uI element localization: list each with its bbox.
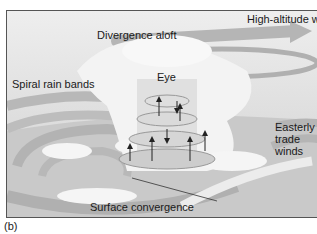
label-easterly-trade-winds-2: trade (275, 133, 300, 145)
label-easterly-trade-winds-3: winds (275, 145, 303, 157)
label-eye: Eye (157, 71, 176, 83)
hurricane-illustration (7, 11, 317, 218)
panel-label: (b) (4, 220, 17, 232)
label-high-altitude-winds: High-altitude winds (247, 13, 317, 25)
label-divergence-aloft: Divergence aloft (97, 29, 177, 41)
label-easterly-trade-winds-1: Easterly (275, 121, 315, 133)
label-spiral-rain-bands: Spiral rain bands (12, 78, 95, 90)
label-surface-convergence: Surface convergence (90, 201, 194, 213)
diagram-frame: High-altitude winds Divergence aloft Spi… (6, 10, 317, 218)
